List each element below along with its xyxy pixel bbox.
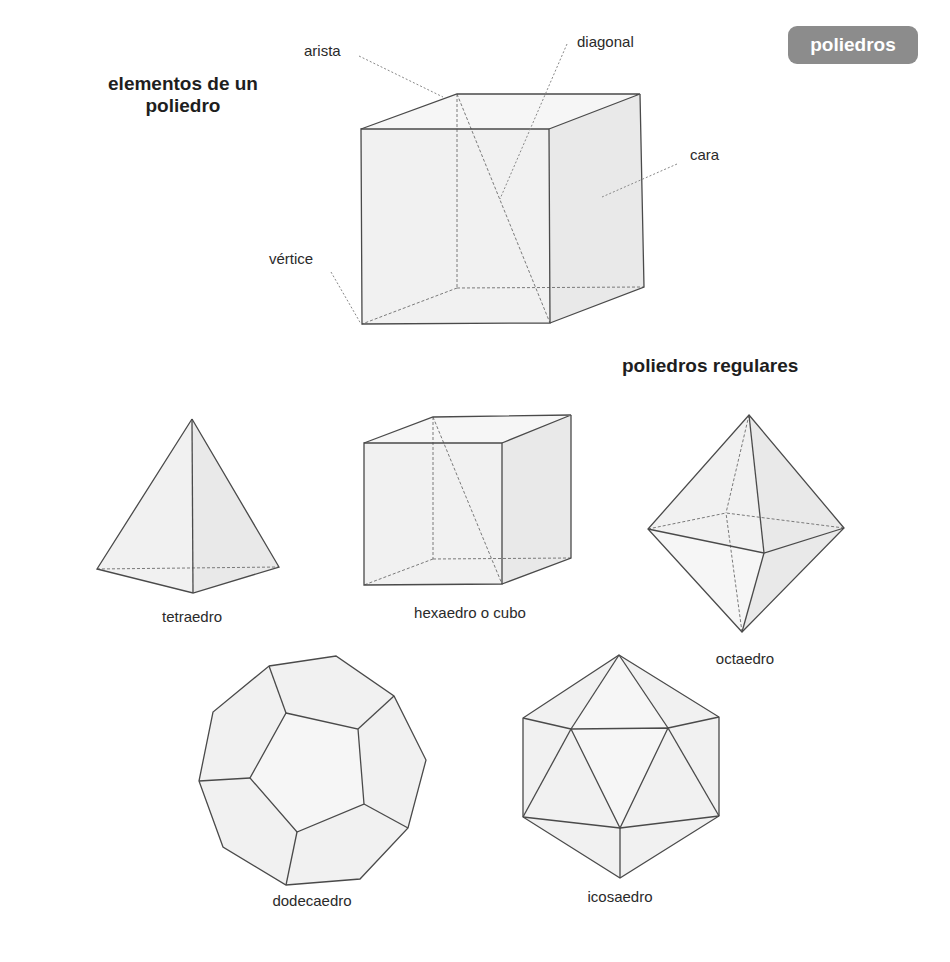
cube-elements-figure: [331, 44, 677, 324]
tetrahedron-figure: [97, 419, 279, 593]
icosahedron-figure: [523, 655, 719, 878]
dodecahedron-figure: [199, 656, 426, 885]
octahedron-figure: [648, 415, 844, 632]
hexahedron-figure: [364, 415, 571, 585]
